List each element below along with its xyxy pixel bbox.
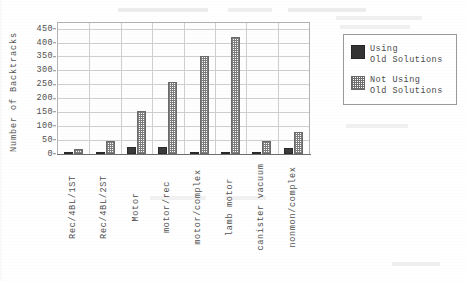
bar-chart: Number of Backtracks 0501001502002503003… xyxy=(0,0,469,281)
gridline-vertical xyxy=(215,23,216,154)
bar xyxy=(168,82,177,154)
y-axis-tick-mark xyxy=(53,42,56,43)
x-axis-label-text: Motor xyxy=(130,192,140,221)
y-axis-tick-label: 350 xyxy=(36,52,53,61)
x-axis-label-text: Rec/4BL/2ST xyxy=(99,175,109,239)
y-axis-tick-label: 400 xyxy=(36,38,53,47)
y-axis-tick-mark xyxy=(53,98,56,99)
x-axis-label-text: motor/rec xyxy=(162,181,172,233)
y-axis-tick-label: 300 xyxy=(36,66,53,75)
x-axis-label: lamb motor xyxy=(223,158,237,254)
x-axis-labels: Rec/4BL/1STRec/4BL/2STMotormotor/recmoto… xyxy=(57,158,310,258)
legend-line-1: Using xyxy=(370,44,443,55)
legend-line-1: Not Using xyxy=(370,75,443,86)
y-axis-tick-mark xyxy=(53,70,56,71)
y-axis-tick-mark xyxy=(53,154,56,155)
gridline-vertical xyxy=(89,23,90,154)
y-axis-title-text: Number of Backtracks xyxy=(9,32,19,152)
legend-entry-label: Using Old Solutions xyxy=(370,44,443,66)
x-axis-label-text: canister vacuum xyxy=(256,163,266,250)
gridline-vertical xyxy=(184,23,185,154)
bar xyxy=(158,147,167,154)
y-axis-tick-label: 100 xyxy=(36,122,53,131)
bar xyxy=(127,147,136,154)
y-axis-tick-mark xyxy=(53,140,56,141)
legend-line-2: Old Solutions xyxy=(370,55,443,66)
legend-entry-label: Not Using Old Solutions xyxy=(370,75,443,97)
bar xyxy=(137,111,146,154)
bar xyxy=(231,37,240,154)
chart-legend: Using Old Solutions Not Using Old Soluti… xyxy=(343,34,457,105)
solid-swatch-icon xyxy=(351,45,365,59)
gridline-vertical xyxy=(278,23,279,154)
x-axis-label: motor/rec xyxy=(160,158,174,254)
bar xyxy=(106,141,115,154)
x-axis-baseline xyxy=(57,154,311,155)
x-axis-label-text: Rec/4BL/1ST xyxy=(68,175,78,239)
y-axis-tick-label: 0 xyxy=(47,150,53,159)
y-axis-tick-mark xyxy=(53,56,56,57)
x-axis-label: canister vacuum xyxy=(254,158,268,254)
y-axis-tick-label: 50 xyxy=(42,136,53,145)
bar xyxy=(294,132,303,154)
gridline-vertical xyxy=(152,23,153,154)
x-axis-label-text: nonmon/complex xyxy=(287,166,297,247)
y-axis-tick-mark xyxy=(53,28,56,29)
legend-line-2: Old Solutions xyxy=(370,86,443,97)
y-axis-ticks: 050100150200250300350400450 xyxy=(30,16,56,164)
bar xyxy=(200,56,209,154)
x-axis-label: nonmon/complex xyxy=(285,158,299,254)
y-axis-tick-label: 250 xyxy=(36,80,53,89)
legend-entry-not-using-old-solutions: Not Using Old Solutions xyxy=(351,75,443,97)
y-axis-tick-label: 450 xyxy=(36,24,53,33)
y-axis-tick-mark xyxy=(53,84,56,85)
x-axis-label: Rec/4BL/2ST xyxy=(97,158,111,254)
bar xyxy=(262,141,271,154)
gridline-vertical xyxy=(246,23,247,154)
checkered-swatch-icon xyxy=(351,76,365,90)
legend-entry-using-old-solutions: Using Old Solutions xyxy=(351,44,443,66)
x-axis-label: Motor xyxy=(128,158,142,254)
x-axis-label: Rec/4BL/1ST xyxy=(66,158,80,254)
plot-area xyxy=(57,22,310,155)
y-axis-tick-mark xyxy=(53,126,56,127)
y-axis-tick-mark xyxy=(53,112,56,113)
x-axis-label-text: lamb motor xyxy=(225,178,235,236)
y-axis-tick-label: 150 xyxy=(36,108,53,117)
y-axis-title: Number of Backtracks xyxy=(6,22,22,162)
x-axis-label-text: motor/complex xyxy=(193,169,203,244)
y-axis-tick-label: 200 xyxy=(36,94,53,103)
gridline-vertical xyxy=(121,23,122,154)
x-axis-label: motor/complex xyxy=(191,158,205,254)
